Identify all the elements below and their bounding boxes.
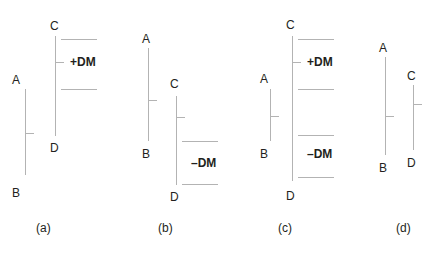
panel-b-minusdm-label: –DM xyxy=(191,157,216,169)
panel-a-current-bar xyxy=(55,36,56,136)
panel-d-prior-bar-tick xyxy=(385,116,394,117)
panel-b-prior-bar-tick xyxy=(148,100,157,101)
directional-movement-figure: ABCD+DM(a)ABCD–DM(b)ABCD+DM–DM(c)ABCD(d) xyxy=(0,0,431,259)
panel-c-plusdm-label: +DM xyxy=(307,56,333,68)
panel-d-prior-bar-low-label: B xyxy=(379,162,387,174)
panel-c-prior-bar-high-label: A xyxy=(260,73,268,85)
panel-a-current-bar-tick xyxy=(55,62,64,63)
panel-b-prior-bar-low-label: B xyxy=(142,148,150,160)
panel-c-plusdm-top-rule xyxy=(298,39,334,40)
panel-c-prior-bar-low-label: B xyxy=(260,148,268,160)
panel-a-current-bar-high-label: C xyxy=(50,20,59,32)
panel-b-prior-bar xyxy=(148,48,149,141)
panel-d-caption: (d) xyxy=(396,222,411,234)
panel-c-prior-bar-tick xyxy=(270,116,279,117)
panel-b-minusdm-bottom-rule xyxy=(182,184,218,185)
panel-a-prior-bar-low-label: B xyxy=(12,187,20,199)
panel-c-plusdm-bottom-rule xyxy=(298,89,334,90)
panel-a-prior-bar-high-label: A xyxy=(12,74,20,86)
panel-c-current-bar-low-label: D xyxy=(286,190,295,202)
panel-c-minusdm-bottom-rule xyxy=(298,177,334,178)
panel-c-current-bar xyxy=(292,36,293,181)
panel-c-minusdm-label: –DM xyxy=(307,148,332,160)
panel-d-current-bar-low-label: D xyxy=(407,157,416,169)
panel-a-current-bar-low-label: D xyxy=(50,142,59,154)
panel-a-plusdm-bottom-rule xyxy=(61,89,97,90)
panel-b-current-bar-high-label: C xyxy=(170,78,179,90)
panel-a-plusdm-top-rule xyxy=(61,39,97,40)
panel-b-current-bar xyxy=(176,96,177,185)
panel-a-plusdm-label: +DM xyxy=(70,56,96,68)
panel-c-current-bar-tick xyxy=(292,62,301,63)
panel-d-prior-bar-high-label: A xyxy=(379,42,387,54)
panel-c-minusdm-top-rule xyxy=(298,135,334,136)
panel-b-caption: (b) xyxy=(158,222,173,234)
panel-c-caption: (c) xyxy=(278,222,292,234)
panel-d-current-bar-tick xyxy=(413,104,422,105)
panel-b-current-bar-tick xyxy=(176,117,185,118)
panel-a-prior-bar-tick xyxy=(25,133,34,134)
panel-b-current-bar-low-label: D xyxy=(170,191,179,203)
panel-c-prior-bar xyxy=(270,89,271,141)
panel-c-current-bar-high-label: C xyxy=(286,19,295,31)
panel-d-prior-bar xyxy=(385,57,386,155)
panel-a-caption: (a) xyxy=(36,222,51,234)
panel-a-prior-bar xyxy=(25,89,26,175)
panel-d-current-bar-high-label: C xyxy=(407,70,416,82)
panel-d-current-bar xyxy=(413,85,414,150)
panel-b-minusdm-top-rule xyxy=(182,141,218,142)
panel-b-prior-bar-high-label: A xyxy=(142,33,150,45)
